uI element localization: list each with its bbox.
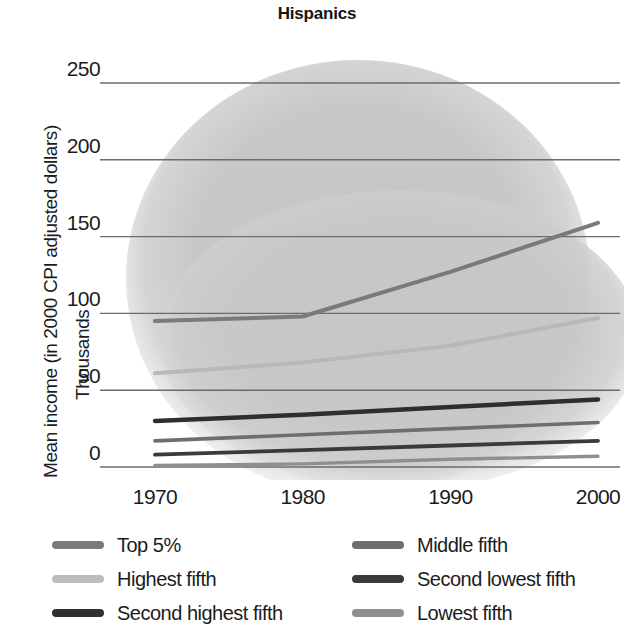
legend-swatch-icon: [52, 609, 104, 617]
legend-swatch-icon: [352, 575, 404, 583]
legend-swatch-icon: [352, 609, 404, 617]
legend-item-label: Highest fifth: [117, 568, 216, 591]
legend-item-label: Middle fifth: [417, 534, 508, 557]
chart-figure: Hispanics Mean income (in 2000 CPI adjus…: [0, 0, 634, 641]
legend-item-label: Second lowest fifth: [417, 568, 575, 591]
legend-swatch-icon: [52, 541, 104, 549]
legend-swatch-icon: [52, 575, 104, 583]
chart-legend: Top 5%Highest fifthSecond highest fifth …: [52, 528, 622, 633]
legend-item[interactable]: Second highest fifth: [52, 596, 342, 630]
legend-item[interactable]: Lowest fifth: [352, 596, 634, 630]
legend-item[interactable]: Middle fifth: [352, 528, 634, 562]
background-shading: [126, 60, 624, 492]
legend-item-label: Top 5%: [117, 534, 181, 557]
plot-svg: [100, 40, 624, 492]
legend-item[interactable]: Highest fifth: [52, 562, 342, 596]
legend-swatch-icon: [352, 541, 404, 549]
legend-item[interactable]: Second lowest fifth: [352, 562, 634, 596]
plot-area: [100, 40, 624, 492]
legend-item[interactable]: Top 5%: [52, 528, 342, 562]
legend-column-left: Top 5%Highest fifthSecond highest fifth: [52, 528, 342, 630]
legend-column-right: Middle fifthSecond lowest fifthLowest fi…: [352, 528, 634, 630]
legend-item-label: Lowest fifth: [417, 602, 512, 625]
legend-item-label: Second highest fifth: [117, 602, 283, 625]
